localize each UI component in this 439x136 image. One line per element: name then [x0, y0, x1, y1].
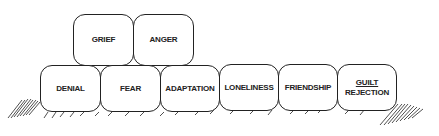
block-label-guilt: GUILT — [356, 78, 378, 88]
block-label: FEAR — [120, 84, 141, 94]
block-grief: GRIEF — [73, 14, 134, 66]
block-label: DENIAL — [56, 84, 85, 94]
block-label: ANGER — [150, 35, 178, 45]
block-label: FRIENDSHIP — [285, 83, 331, 93]
block-loneliness: LONELINESS — [219, 64, 279, 111]
block-label: LONELINESS — [224, 83, 273, 93]
block-label: ADAPTATION — [165, 84, 214, 94]
block-adaptation: ADAPTATION — [160, 65, 220, 112]
block-guilt-rejection: GUILT REJECTION — [337, 64, 397, 111]
block-fear: FEAR — [100, 65, 161, 112]
block-label: GRIEF — [92, 35, 115, 45]
block-denial: DENIAL — [40, 65, 101, 112]
block-anger: ANGER — [133, 14, 194, 66]
block-friendship: FRIENDSHIP — [278, 64, 338, 111]
block-label-rejection: REJECTION — [345, 88, 389, 98]
